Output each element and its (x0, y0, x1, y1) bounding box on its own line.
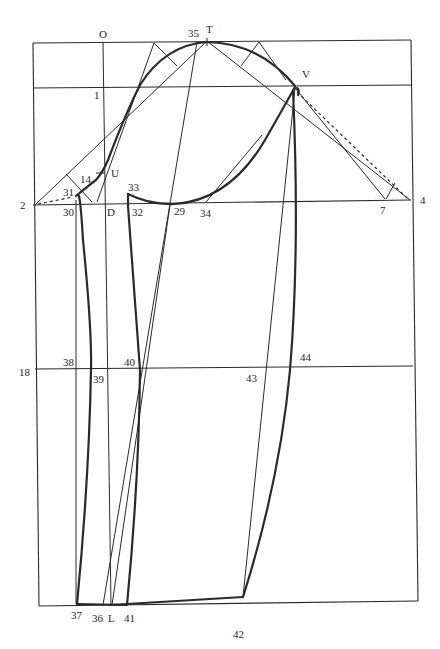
label-4: 4 (420, 194, 426, 206)
label-40: 40 (124, 356, 136, 368)
label-38: 38 (63, 356, 75, 368)
point-labels: O 35 T V 1 U 14 31 33 2 30 D 32 29 34 7 … (19, 23, 426, 640)
label-42: 42 (233, 628, 244, 640)
label-U: U (111, 167, 119, 179)
label-36: 36 (92, 612, 104, 624)
label-32: 32 (132, 206, 143, 218)
label-31: 31 (63, 186, 74, 198)
label-18: 18 (19, 366, 31, 378)
label-T: T (206, 23, 213, 35)
label-39: 39 (93, 373, 105, 385)
label-O: O (99, 28, 107, 40)
label-37: 37 (71, 609, 83, 621)
sleeve-pattern-diagram: O 35 T V 1 U 14 31 33 2 30 D 32 29 34 7 … (0, 0, 440, 649)
label-2: 2 (20, 199, 26, 211)
label-30: 30 (63, 206, 75, 218)
label-L: L (108, 612, 115, 624)
label-33: 33 (128, 181, 140, 193)
label-34: 34 (200, 207, 212, 219)
label-14: 14 (80, 173, 92, 185)
label-35: 35 (188, 27, 200, 39)
center-line (103, 42, 111, 606)
label-1: 1 (94, 89, 100, 101)
label-41: 41 (124, 612, 135, 624)
label-D: D (107, 206, 115, 218)
label-7: 7 (380, 204, 386, 216)
label-44: 44 (300, 351, 312, 363)
label-29: 29 (174, 205, 186, 217)
label-43: 43 (246, 372, 258, 384)
construction-lines (35, 38, 410, 605)
label-V: V (302, 68, 310, 80)
